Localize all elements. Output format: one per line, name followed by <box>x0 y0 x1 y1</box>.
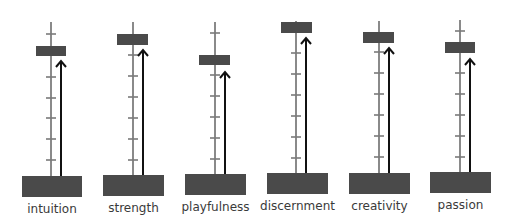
meter-label: strength <box>89 201 179 215</box>
meter-base <box>349 173 410 194</box>
meter-label: playfulness <box>171 200 261 214</box>
meter-label: passion <box>416 198 506 212</box>
meter-playfulness <box>185 22 246 195</box>
meter-label: creativity <box>335 199 425 213</box>
meter-puck <box>363 32 394 43</box>
meter-base <box>22 176 82 197</box>
meter-puck <box>117 34 148 45</box>
meter-puck <box>281 22 312 33</box>
meter-base <box>267 173 328 194</box>
meter-discernment <box>267 21 328 194</box>
meter-puck <box>36 46 66 56</box>
meter-label: intuition <box>7 202 97 216</box>
meter-puck <box>445 42 475 53</box>
meter-base <box>185 174 246 195</box>
meter-creativity <box>349 21 410 194</box>
meter-base <box>103 175 164 196</box>
meter-label: discernment <box>253 199 343 213</box>
meter-base <box>430 172 491 193</box>
meter-strength <box>103 22 164 196</box>
strength-meters-diagram <box>0 0 513 224</box>
meter-intuition <box>22 22 82 197</box>
meter-puck <box>199 55 230 65</box>
meter-passion <box>430 20 491 193</box>
